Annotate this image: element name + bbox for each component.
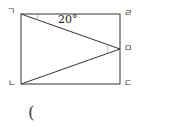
- angle-arc-top-left: [37, 14, 38, 20]
- angle-arc-mid-right: [107, 45, 108, 54]
- label-top-left: ㄱ: [7, 7, 15, 16]
- segment-bottom-left-to-mid-right: [21, 49, 120, 84]
- label-bottom-left: ㄴ: [8, 79, 16, 88]
- angle-label: 20°: [58, 14, 78, 25]
- label-mid-right: ㅁ: [124, 44, 132, 53]
- label-top-right: ㄹ: [124, 9, 132, 18]
- geometry-figure: [0, 0, 172, 130]
- answer-parenthesis: (: [28, 104, 35, 121]
- label-bottom-right: ㄷ: [124, 79, 132, 88]
